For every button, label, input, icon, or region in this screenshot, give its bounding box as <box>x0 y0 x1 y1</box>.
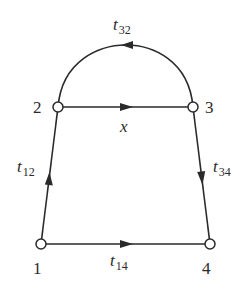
node-label-2: 2 <box>33 98 42 117</box>
node-label-3: 3 <box>205 98 214 117</box>
arrow-up-icon <box>45 172 53 186</box>
edge-label-t14: t14 <box>110 251 128 273</box>
edge-label-x: x <box>119 117 128 136</box>
edge-t32 <box>58 45 193 107</box>
node-3 <box>188 102 198 112</box>
arrow-down-icon <box>197 171 205 185</box>
arrow-left-icon <box>121 41 133 49</box>
signal-flow-graph: 1 2 3 4 t32 x t12 t34 t14 <box>0 0 251 290</box>
node-label-4: 4 <box>202 259 211 278</box>
node-2 <box>53 102 63 112</box>
node-1 <box>36 239 46 249</box>
node-4 <box>205 239 215 249</box>
arrow-right-icon <box>120 240 133 248</box>
edge-label-t32: t32 <box>113 15 131 37</box>
node-label-1: 1 <box>33 259 42 278</box>
edges <box>41 45 210 244</box>
edge-label-t34: t34 <box>213 157 231 179</box>
edge-label-t12: t12 <box>17 157 35 179</box>
arrow-right-icon <box>120 103 133 111</box>
